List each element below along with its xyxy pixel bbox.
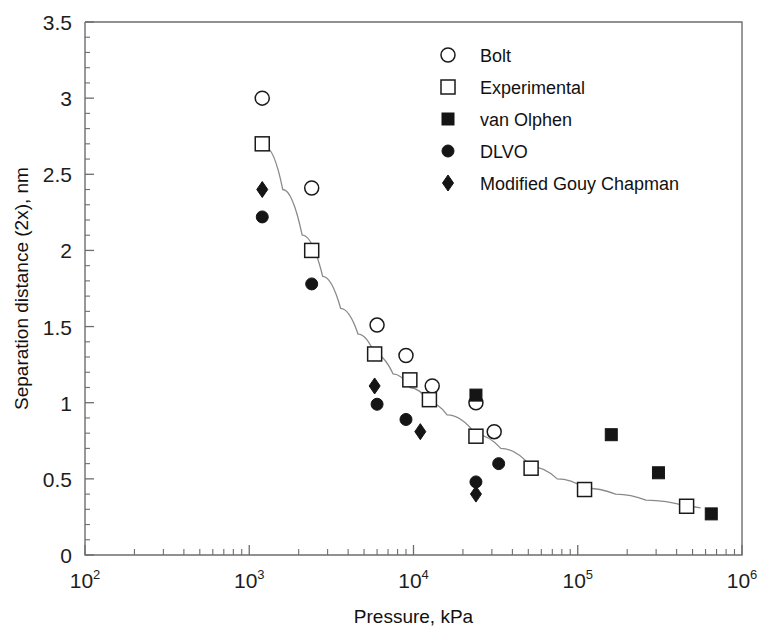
data-point-dlvo: [371, 398, 383, 410]
y-axis-tick-label: 0: [60, 544, 72, 567]
data-point-van-olphen: [470, 389, 482, 401]
y-axis-tick-label: 2: [60, 239, 72, 262]
legend-marker-dlvo: [442, 145, 454, 157]
x-axis-tick-label: 105: [562, 567, 593, 592]
y-axis-tick-label: 2.5: [43, 163, 72, 186]
scatter-plot: 00.511.522.533.5102103104105106Pressure,…: [0, 0, 762, 633]
data-point-experimental: [255, 137, 269, 151]
data-point-experimental: [403, 373, 417, 387]
data-point-dlvo: [400, 413, 412, 425]
data-point-experimental: [305, 243, 319, 257]
data-point-dlvo: [306, 278, 318, 290]
data-point-bolt: [399, 349, 413, 363]
data-point-dlvo: [493, 458, 505, 470]
y-axis-tick-label: 0.5: [43, 468, 72, 491]
x-axis-tick-label: 106: [727, 567, 758, 592]
data-point-modified-gouy-chapman: [257, 182, 268, 198]
legend-label-experimental: Experimental: [480, 78, 585, 98]
legend-label-dlvo: DLVO: [480, 142, 528, 162]
data-point-dlvo: [256, 211, 268, 223]
data-point-modified-gouy-chapman: [369, 378, 380, 394]
legend-label-modified-gouy-chapman: Modified Gouy Chapman: [480, 174, 679, 194]
x-axis-tick-label: 102: [70, 567, 101, 592]
y-axis-tick-label: 3: [60, 87, 72, 110]
legend-marker-bolt: [441, 48, 455, 62]
data-point-van-olphen: [705, 508, 717, 520]
data-point-experimental: [422, 393, 436, 407]
data-point-bolt: [370, 318, 384, 332]
data-point-bolt: [487, 425, 501, 439]
legend-label-van-olphen: van Olphen: [480, 110, 572, 130]
y-axis-tick-label: 3.5: [43, 11, 72, 34]
data-point-bolt: [305, 181, 319, 195]
y-axis-tick-label: 1.5: [43, 316, 72, 339]
legend-marker-van-olphen: [442, 113, 454, 125]
legend-marker-modified-gouy-chapman: [443, 175, 454, 191]
data-point-modified-gouy-chapman: [415, 424, 426, 440]
chart-figure: 00.511.522.533.5102103104105106Pressure,…: [0, 0, 762, 633]
x-axis-title: Pressure, kPa: [354, 606, 474, 627]
fit-curve: [265, 147, 700, 508]
y-axis-title: Separation distance (2x), nm: [11, 167, 32, 410]
legend-marker-experimental: [441, 80, 455, 94]
data-point-experimental: [469, 429, 483, 443]
data-point-experimental: [524, 461, 538, 475]
data-point-experimental: [578, 483, 592, 497]
plot-frame: [85, 22, 742, 555]
x-axis-tick-label: 104: [398, 567, 429, 592]
data-point-modified-gouy-chapman: [470, 486, 481, 502]
data-point-bolt: [425, 379, 439, 393]
x-axis-tick-label: 103: [234, 567, 265, 592]
data-point-experimental: [368, 347, 382, 361]
y-axis-tick-label: 1: [60, 392, 72, 415]
data-point-bolt: [255, 91, 269, 105]
data-point-van-olphen: [652, 467, 664, 479]
data-point-experimental: [680, 499, 694, 513]
legend-label-bolt: Bolt: [480, 46, 511, 66]
data-point-van-olphen: [605, 429, 617, 441]
